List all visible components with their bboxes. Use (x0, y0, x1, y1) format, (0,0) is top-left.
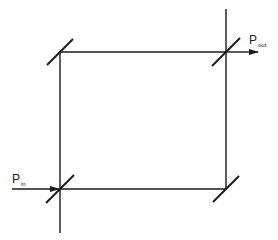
interferometer-diagram: Pin Pout (0, 0, 278, 240)
input-label: Pin (12, 172, 26, 187)
output-label: Pout (249, 33, 267, 48)
